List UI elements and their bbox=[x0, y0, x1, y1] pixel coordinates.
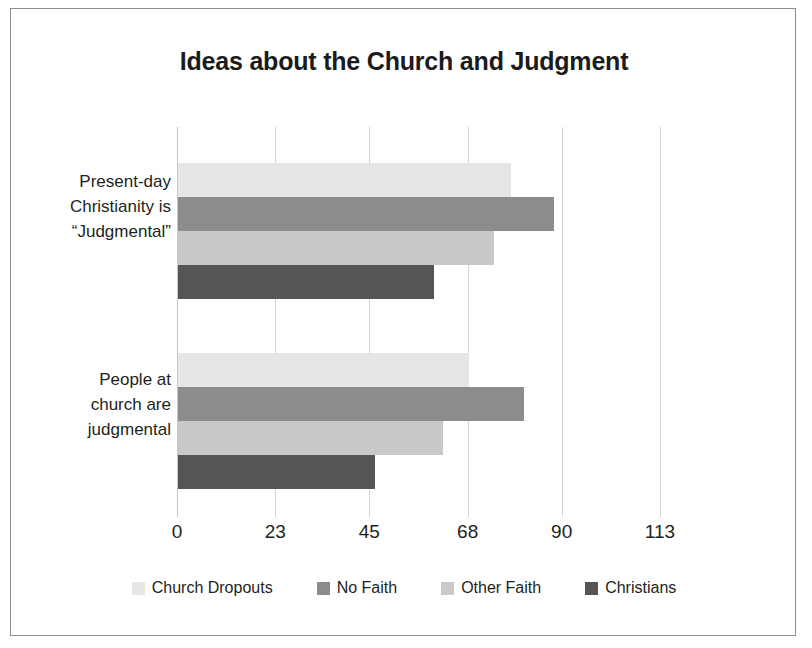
legend-item-0[interactable]: Church Dropouts bbox=[132, 579, 273, 597]
category-label-1-line-2: judgmental bbox=[21, 417, 171, 442]
bar-1-0[interactable] bbox=[178, 353, 469, 387]
category-label-0-line-2: “Judgmental” bbox=[21, 219, 171, 244]
legend-item-2[interactable]: Other Faith bbox=[441, 579, 541, 597]
legend-item-1[interactable]: No Faith bbox=[317, 579, 397, 597]
plot-area bbox=[177, 127, 660, 517]
x-tick-label-45: 45 bbox=[359, 521, 380, 543]
legend-swatch-icon-0 bbox=[132, 582, 145, 595]
category-label-1-line-0: People at bbox=[21, 367, 171, 392]
category-label-0-line-0: Present-day bbox=[21, 169, 171, 194]
x-tick-label-0: 0 bbox=[172, 521, 183, 543]
legend-label-1: No Faith bbox=[337, 579, 397, 597]
bar-1-3[interactable] bbox=[178, 455, 375, 489]
x-tick-label-68: 68 bbox=[457, 521, 478, 543]
legend-label-0: Church Dropouts bbox=[152, 579, 273, 597]
bar-0-0[interactable] bbox=[178, 163, 511, 197]
x-tick-label-23: 23 bbox=[265, 521, 286, 543]
bar-group-0 bbox=[178, 163, 660, 300]
bar-0-1[interactable] bbox=[178, 197, 554, 231]
bar-1-1[interactable] bbox=[178, 387, 524, 421]
legend-item-3[interactable]: Christians bbox=[585, 579, 676, 597]
category-label-0: Present-dayChristianity is“Judgmental” bbox=[21, 169, 171, 244]
gridline-113 bbox=[660, 127, 661, 517]
chart-legend: Church DropoutsNo FaithOther FaithChrist… bbox=[11, 579, 797, 597]
chart-title: Ideas about the Church and Judgment bbox=[11, 47, 797, 76]
x-axis-tick-labels: 023456890113 bbox=[177, 521, 660, 551]
bar-group-1 bbox=[178, 353, 660, 490]
category-label-1-line-1: church are bbox=[21, 392, 171, 417]
category-label-0-line-1: Christianity is bbox=[21, 194, 171, 219]
bar-0-2[interactable] bbox=[178, 231, 494, 265]
legend-label-2: Other Faith bbox=[461, 579, 541, 597]
category-label-1: People atchurch arejudgmental bbox=[21, 367, 171, 442]
chart-figure-frame: Ideas about the Church and Judgment Pres… bbox=[10, 8, 796, 636]
legend-swatch-icon-2 bbox=[441, 582, 454, 595]
x-tick-label-90: 90 bbox=[551, 521, 572, 543]
bar-0-3[interactable] bbox=[178, 265, 434, 299]
legend-swatch-icon-1 bbox=[317, 582, 330, 595]
legend-label-3: Christians bbox=[605, 579, 676, 597]
x-tick-label-113: 113 bbox=[645, 521, 675, 543]
bar-1-2[interactable] bbox=[178, 421, 443, 455]
legend-swatch-icon-3 bbox=[585, 582, 598, 595]
